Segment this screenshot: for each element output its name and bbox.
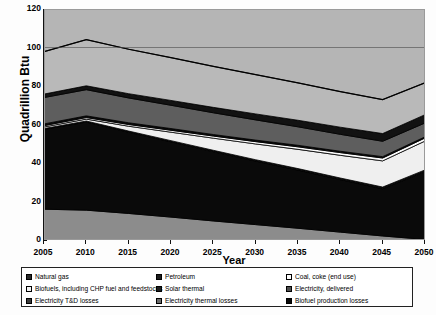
legend-item[interactable]: Coal, coke (end use) [286, 271, 368, 282]
legend-swatch-icon [156, 298, 162, 304]
x-tick-mark [382, 240, 383, 244]
x-tick-mark [212, 240, 213, 244]
legend-swatch-icon [26, 298, 32, 304]
legend-swatch-icon [26, 274, 32, 280]
legend-item[interactable]: Electricity T&D losses [26, 295, 162, 306]
x-tick-mark [297, 240, 298, 244]
y-tick-label: 0 [15, 235, 41, 244]
x-tick-mark [43, 240, 44, 244]
legend-item-label: Electricity, delivered [295, 285, 353, 292]
x-tick-mark [85, 240, 86, 244]
x-tick-mark [128, 240, 129, 244]
x-tick-mark [170, 240, 171, 244]
legend-item-label: Biofuel production losses [295, 297, 368, 304]
stacked-area-chart [44, 9, 425, 240]
y-tick-label: 20 [15, 197, 41, 206]
x-axis-title: Year [43, 254, 425, 266]
legend-item[interactable]: Natural gas [26, 271, 162, 282]
y-axis-title: Quadrillion Btu [18, 14, 32, 184]
legend-swatch-icon [156, 286, 162, 292]
legend-swatch-icon [156, 274, 162, 280]
legend-swatch-icon [26, 286, 32, 292]
legend-item[interactable]: Electricity thermal losses [156, 295, 238, 306]
legend-item[interactable]: Electricity, delivered [286, 283, 368, 294]
legend-swatch-icon [286, 286, 292, 292]
legend-swatch-icon [286, 298, 292, 304]
x-tick-mark [339, 240, 340, 244]
legend-item-label: Solar thermal [165, 285, 204, 292]
chart-screenshot: 020406080100120 Quadrillion Btu 20052010… [0, 0, 436, 315]
legend-item[interactable]: Biofuels, including CHP fuel and feedsto… [26, 283, 162, 294]
legend-column: Natural gasBiofuels, including CHP fuel … [26, 271, 162, 307]
legend-item-label: Petroleum [165, 273, 195, 280]
x-tick-mark [424, 240, 425, 244]
legend-item-label: Natural gas [35, 273, 69, 280]
legend-column: Coal, coke (end use)Electricity, deliver… [286, 271, 368, 307]
legend-item-label: Biofuels, including CHP fuel and feedsto… [35, 285, 162, 292]
y-tick-label: 120 [15, 4, 41, 13]
chart-legend: Natural gasBiofuels, including CHP fuel … [21, 267, 413, 307]
legend-item-label: Electricity thermal losses [165, 297, 238, 304]
x-tick-mark [255, 240, 256, 244]
legend-item-label: Electricity T&D losses [35, 297, 99, 304]
legend-item[interactable]: Solar thermal [156, 283, 238, 294]
legend-swatch-icon [286, 274, 292, 280]
legend-item[interactable]: Biofuel production losses [286, 295, 368, 306]
plot-area [43, 9, 425, 240]
legend-item[interactable]: Petroleum [156, 271, 238, 282]
legend-item-label: Coal, coke (end use) [295, 273, 356, 280]
legend-column: PetroleumSolar thermalElectricity therma… [156, 271, 238, 307]
